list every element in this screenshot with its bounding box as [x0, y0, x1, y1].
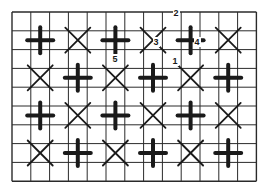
step-label: 1: [172, 56, 177, 66]
cross-stitch-icon: [103, 65, 128, 90]
cross-stitch-icon: [216, 28, 241, 53]
cross-stitch-icon: [178, 141, 203, 166]
cross-stitch-icon: [103, 141, 128, 166]
grid-lines: [12, 12, 256, 181]
cross-stitch-icon: [178, 65, 203, 90]
step-label: 4: [194, 37, 199, 47]
cross-stitch-icon: [28, 65, 53, 90]
cross-stitch-icon: [141, 103, 166, 128]
step-label: 3: [153, 37, 158, 47]
cross-stitch-icon: [65, 103, 90, 128]
stitch-symbols: [27, 27, 241, 166]
cross-stitch-grid-diagram: 23415: [0, 0, 271, 195]
step-label: 2: [173, 8, 178, 18]
cross-stitch-icon: [216, 103, 241, 128]
step-labels: 23415: [112, 8, 201, 66]
step-label: 5: [112, 54, 117, 64]
cross-stitch-icon: [28, 141, 53, 166]
cross-stitch-icon: [65, 28, 90, 53]
